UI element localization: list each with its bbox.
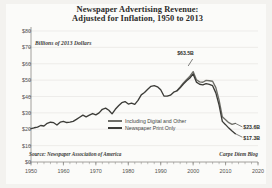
y-tick-label: $60: [22, 61, 31, 67]
legend-label-digital: Including Digital and Other: [125, 118, 186, 124]
credit-note: Carpe Diem Blog: [219, 151, 258, 157]
x-axis-ticks: 19501960197019801990200020102020: [0, 168, 272, 180]
x-tick-label: 2000: [187, 168, 199, 174]
y-tick-label: $50: [22, 77, 31, 83]
legend-swatch-digital: [108, 120, 122, 122]
y-tick-label: $40: [22, 94, 31, 100]
legend-swatch-print: [108, 127, 122, 129]
x-tick-label: 1970: [90, 168, 102, 174]
legend-item-digital: Including Digital and Other: [108, 117, 186, 124]
x-tick-label: 1960: [57, 168, 69, 174]
chart-figure: Newspaper Advertising Revenue: Adjusted …: [0, 0, 272, 188]
y-tick-label: $10: [22, 143, 31, 149]
y-tick-label: $30: [22, 110, 31, 116]
y-tick-label: $0: [25, 159, 31, 165]
x-tick-label: 1990: [155, 168, 167, 174]
x-tick-label: 2010: [220, 168, 232, 174]
x-tick-label: 1950: [25, 168, 37, 174]
annotation-end-print-value: $17.3B: [243, 135, 260, 141]
y-tick-label: $20: [22, 126, 31, 132]
x-tick-label: 2020: [252, 168, 264, 174]
chart-legend: Including Digital and Other Newspaper Pr…: [108, 117, 186, 131]
annotation-peak-value: $63.5B: [177, 50, 194, 56]
legend-item-print: Newspaper Print Only: [108, 124, 186, 131]
legend-label-print: Newspaper Print Only: [125, 125, 175, 131]
annotation-end-digital-value: $23.6B: [243, 124, 260, 130]
plot-area: [0, 0, 272, 188]
y-tick-label: $70: [22, 44, 31, 50]
y-tick-label: $80: [22, 28, 31, 34]
y-axis-ticks: $0$10$20$30$40$50$60$70$80: [10, 0, 31, 188]
source-note: Source: Newspaper Association of America: [29, 151, 121, 157]
x-tick-label: 1980: [122, 168, 134, 174]
